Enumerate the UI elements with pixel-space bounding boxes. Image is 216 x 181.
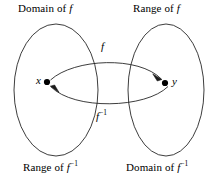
inverse-arrowhead <box>50 85 59 92</box>
label-domain-of-f-text: Domain of <box>18 2 66 14</box>
label-range-of-f-inverse-text: Range of <box>23 161 64 173</box>
right-set-ellipse <box>128 24 204 156</box>
label-domain-of-f: Domain of f <box>18 2 72 14</box>
label-range-of-f-text: Range of <box>133 2 174 14</box>
label-domain-of-f-symbol: f <box>69 2 72 14</box>
element-x-label: x <box>36 74 41 86</box>
label-domain-of-f-inverse: Domain of f−1 <box>126 161 188 173</box>
label-domain-of-f-inverse-exponent: −1 <box>180 159 188 168</box>
label-range-of-f-inverse: Range of f−1 <box>23 161 78 173</box>
label-range-of-f: Range of f <box>133 2 180 14</box>
forward-mapping-arrow <box>51 63 162 80</box>
mapping-label-f-inverse-exponent: −1 <box>99 108 107 117</box>
mapping-label-f: f <box>101 40 104 52</box>
element-x-dot <box>44 79 50 85</box>
label-domain-of-f-inverse-text: Domain of <box>126 161 174 173</box>
element-y-label: y <box>172 75 177 87</box>
label-range-of-f-inverse-exponent: −1 <box>70 159 78 168</box>
mapping-label-f-inverse: f−1 <box>96 110 107 122</box>
diagram-canvas <box>0 0 216 181</box>
function-inverse-diagram: Domain of f Range of f Range of f−1 Doma… <box>0 0 216 181</box>
mapping-label-f-symbol: f <box>101 40 104 52</box>
label-range-of-f-symbol: f <box>177 2 180 14</box>
inverse-mapping-arrow <box>51 87 168 104</box>
element-y-dot <box>162 80 168 86</box>
